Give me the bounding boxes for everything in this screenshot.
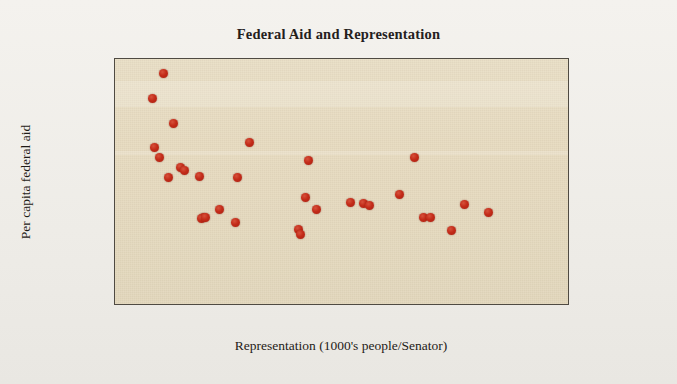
scatter-point (155, 153, 164, 162)
chart-title: Federal Aid and Representation (0, 26, 677, 43)
y-tick (114, 158, 115, 159)
scatter-point (410, 153, 419, 162)
y-tick (114, 207, 115, 208)
scatter-point (233, 173, 242, 182)
scatter-point (447, 226, 456, 235)
scatter-point (301, 193, 310, 202)
ghost-band-lower (115, 151, 568, 155)
x-tick (115, 304, 116, 305)
x-tick (180, 304, 181, 305)
scatter-point (484, 208, 493, 217)
x-tick (440, 304, 441, 305)
scatter-point (180, 166, 189, 175)
scatter-point (215, 205, 224, 214)
scatter-point (395, 190, 404, 199)
scatter-point (150, 143, 159, 152)
scatter-point (460, 200, 469, 209)
scatter-point (346, 198, 355, 207)
paper-texture (115, 59, 568, 304)
y-tick (114, 257, 115, 258)
y-tick (114, 281, 115, 282)
scatter-point (201, 213, 210, 222)
scatter-point (245, 138, 254, 147)
x-axis-label: Representation (1000's people/Senator) (114, 338, 569, 354)
plot-area: 0500100015002000250030003500400045005000… (114, 58, 569, 305)
y-tick (114, 84, 115, 85)
y-tick (114, 232, 115, 233)
y-tick (114, 59, 115, 60)
scatter-point (296, 230, 305, 239)
x-tick (505, 304, 506, 305)
ghost-band-upper (115, 81, 568, 107)
scatter-point (365, 201, 374, 210)
scatter-point (148, 94, 157, 103)
scatter-point (159, 69, 168, 78)
y-axis-label: Per capita federal aid (16, 58, 36, 305)
x-tick (375, 304, 376, 305)
chart-figure: Federal Aid and Representation Per capit… (0, 0, 677, 384)
scatter-point (169, 119, 178, 128)
x-tick (310, 304, 311, 305)
scatter-point (231, 218, 240, 227)
scatter-point (195, 172, 204, 181)
y-tick (114, 183, 115, 184)
scatter-point (312, 205, 321, 214)
y-axis-label-text: Per capita federal aid (18, 124, 34, 238)
x-tick (245, 304, 246, 305)
y-tick (114, 133, 115, 134)
y-tick (114, 108, 115, 109)
scatter-point (426, 213, 435, 222)
scatter-point (304, 156, 313, 165)
scatter-point (164, 173, 173, 182)
